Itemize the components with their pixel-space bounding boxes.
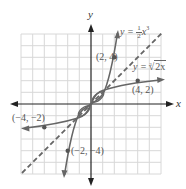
equation-cube-root-index: 3: [149, 62, 152, 67]
equation-cube-prefix: y =: [120, 26, 136, 37]
equation-cube-exp: 3: [146, 25, 149, 31]
x-axis-right-arrow-icon: [166, 101, 174, 107]
equation-cube: y = 12x3: [120, 25, 149, 40]
point-4-2: [136, 79, 140, 83]
x-axis-left-arrow-icon: [10, 101, 18, 107]
equation-cube-root: y = 3√2x: [133, 62, 166, 72]
equation-cube-root-prefix: y =: [133, 61, 149, 72]
point-neg2-neg4: [66, 149, 70, 153]
y-axis-up-arrow-icon: [88, 24, 94, 32]
y-axis-label: y: [88, 9, 93, 20]
y-axis-down-arrow-icon: [88, 178, 94, 186]
label-point-4-2: (4, 2): [132, 85, 154, 95]
x-axis-label: x: [176, 98, 181, 109]
label-point-neg4-neg2: (−4, −2): [12, 113, 45, 123]
equation-cube-root-radicand: 2x: [154, 60, 166, 72]
graph-canvas: [0, 0, 186, 189]
cube-root-curve-left-arrow-icon: [21, 126, 30, 132]
point-neg4-neg2: [42, 125, 46, 129]
label-point-neg2-neg4: (−2, −4): [71, 146, 104, 156]
label-point-2-4: (2, 4): [96, 52, 118, 62]
